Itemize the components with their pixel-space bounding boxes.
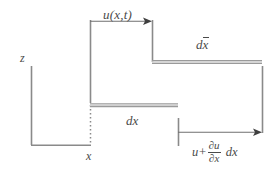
flux-dx-term: dx xyxy=(226,146,238,159)
flux-expression-label: u+∂u∂xdx xyxy=(192,140,237,165)
origin-position-label: x xyxy=(86,150,91,162)
rod-element-diagram: u(x,t) dx dx z x u+∂u∂xdx xyxy=(0,0,278,174)
displacement-label: u(x,t) xyxy=(103,8,132,21)
undeformed-length-label: dx xyxy=(126,114,138,127)
deformed-length-label: dx xyxy=(196,38,208,51)
partial-derivative-fraction: ∂u∂x xyxy=(208,140,221,165)
partial-derivative-denominator: ∂x xyxy=(208,153,221,165)
partial-derivative-numerator: ∂u xyxy=(208,140,221,152)
vertical-axis-label: z xyxy=(20,52,25,64)
deformed-length-xbar: x xyxy=(203,38,209,51)
flux-plus-sign: + xyxy=(198,146,206,159)
